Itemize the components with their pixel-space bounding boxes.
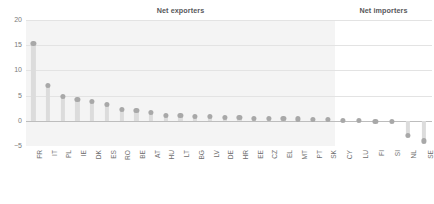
x-axis-tick-label-lu: LU [362, 150, 369, 158]
stem [105, 105, 109, 121]
stem [90, 101, 94, 121]
y-axis-tick-label: 15 [0, 41, 22, 48]
stem [31, 43, 35, 121]
y-axis-tick-label: 0 [0, 117, 22, 124]
x-axis-tick-label-pl: PL [65, 150, 72, 158]
x-axis-tick-label-es: ES [110, 150, 117, 159]
stem [75, 99, 79, 121]
x-axis-tick-label-cy: CY [346, 150, 353, 159]
data-point-si[interactable] [384, 20, 399, 146]
y-axis-tick-label: 20 [0, 16, 22, 23]
data-point-pl[interactable] [55, 20, 70, 146]
x-axis-tick-label-be: BE [139, 150, 146, 159]
x-axis-tick-label-si: SI [394, 150, 401, 156]
data-point-fr[interactable] [26, 20, 41, 146]
marker-dot [325, 117, 330, 122]
x-axis-tick-label-dk: DK [95, 150, 102, 159]
data-point-ee[interactable] [247, 20, 262, 146]
marker-dot [373, 119, 378, 124]
x-axis-tick-label-fi: FI [378, 150, 385, 156]
data-point-bg[interactable] [188, 20, 203, 146]
marker-dot [405, 133, 410, 138]
x-axis-tick-label-de: DE [227, 150, 234, 159]
y-axis-tick-label: 10 [0, 66, 22, 73]
marker-dot [296, 116, 301, 121]
data-point-cy[interactable] [336, 20, 351, 146]
x-axis-tick-label-nl: NL [410, 150, 417, 158]
data-point-fi[interactable] [368, 20, 383, 146]
data-point-el[interactable] [276, 20, 291, 146]
data-point-es[interactable] [100, 20, 115, 146]
marker-dot [340, 118, 345, 123]
x-axis-tick-label-ro: RO [124, 150, 131, 160]
x-axis-tick-label-hr: HR [242, 150, 249, 160]
data-point-dk[interactable] [85, 20, 100, 146]
data-point-sk[interactable] [320, 20, 335, 146]
marker-dot [357, 118, 362, 123]
data-point-at[interactable] [144, 20, 159, 146]
data-point-ro[interactable] [114, 20, 129, 146]
data-point-lu[interactable] [352, 20, 367, 146]
x-axis-tick-label-hu: HU [168, 150, 175, 160]
data-point-mt[interactable] [291, 20, 306, 146]
x-axis-tick-label-mt: MT [301, 150, 308, 160]
data-point-cz[interactable] [261, 20, 276, 146]
data-point-lt[interactable] [173, 20, 188, 146]
x-axis-tick-label-cz: CZ [271, 150, 278, 159]
x-axis-tick-label-fr: FR [36, 150, 43, 159]
x-axis-tick-label-se: SE [427, 150, 434, 159]
data-point-ie[interactable] [70, 20, 85, 146]
marker-dot [421, 138, 426, 143]
x-axis-tick-label-ie: IE [80, 150, 87, 156]
x-axis-tick-label-lv: LV [213, 150, 220, 158]
data-point-lv[interactable] [203, 20, 218, 146]
data-point-be[interactable] [129, 20, 144, 146]
data-point-se[interactable] [417, 20, 432, 146]
data-point-hu[interactable] [158, 20, 173, 146]
x-axis-tick-label-it: IT [51, 150, 58, 156]
stem [61, 96, 65, 121]
x-axis-tick-label-bg: BG [198, 150, 205, 160]
plot-area [26, 20, 432, 146]
data-point-pt[interactable] [306, 20, 321, 146]
marker-dot [310, 117, 315, 122]
x-axis-tick-label-lt: LT [183, 150, 190, 157]
y-axis-tick-label: −5 [0, 142, 22, 149]
x-axis-tick-label-el: EL [286, 150, 293, 158]
x-axis-tick-label-ee: EE [257, 150, 264, 159]
panel-title-net-importers: Net importers [335, 6, 432, 15]
data-point-it[interactable] [41, 20, 56, 146]
panel-title-net-exporters: Net exporters [26, 6, 335, 15]
data-point-nl[interactable] [400, 20, 415, 146]
y-axis-tick-label: 5 [0, 92, 22, 99]
data-point-hr[interactable] [232, 20, 247, 146]
marker-dot [389, 119, 394, 124]
x-axis-tick-label-pt: PT [316, 150, 323, 158]
x-axis-tick-label-sk: SK [330, 150, 337, 159]
stem [46, 86, 50, 121]
x-axis-tick-label-at: AT [154, 150, 161, 158]
data-point-de[interactable] [217, 20, 232, 146]
